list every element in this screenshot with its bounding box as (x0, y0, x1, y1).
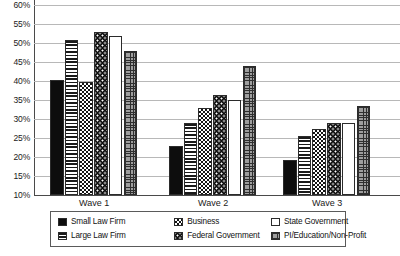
bar (342, 123, 356, 195)
x-axis-tick-label: Wave 3 (312, 198, 342, 208)
legend-item[interactable]: Federal Government (174, 229, 271, 243)
x-axis-tick-label: Wave 2 (198, 198, 228, 208)
legend-item[interactable]: Business (174, 215, 271, 229)
y-axis-tick-label: 45% (14, 58, 30, 67)
bar (65, 40, 79, 195)
y-axis-tick-label: 20% (14, 153, 30, 162)
bar (228, 100, 242, 195)
bar (198, 108, 212, 195)
bar (169, 146, 183, 195)
bars-layer (34, 0, 400, 196)
bar (124, 51, 138, 195)
legend-item-label: Business (187, 218, 219, 226)
bar (184, 123, 198, 195)
bar (357, 106, 371, 195)
legend-swatch (271, 232, 280, 240)
legend-item-label: Large Law Firm (71, 232, 126, 240)
bar (50, 80, 64, 195)
y-axis-tick-label: 35% (14, 96, 30, 105)
bar-group (50, 0, 158, 196)
bar (213, 95, 227, 195)
bar (79, 82, 93, 195)
legend-swatch (174, 218, 183, 226)
legend-swatch (58, 232, 67, 240)
legend-item[interactable]: Small Law Firm (58, 215, 174, 229)
legend-item-label: State Government (284, 218, 348, 226)
x-axis: Wave 1Wave 2Wave 3 (34, 196, 400, 212)
bar (243, 66, 257, 195)
y-axis-tick-label: 40% (14, 77, 30, 86)
legend-item[interactable]: PI/Education/Non-Profit (271, 229, 341, 243)
bar (327, 123, 341, 195)
y-axis: 60%55%50%45%40%35%30%25%20%15%10% (0, 0, 32, 196)
y-axis-tick-label: 10% (14, 191, 30, 200)
x-axis-tick-label: Wave 1 (79, 198, 109, 208)
legend-item-label: Small Law Firm (71, 218, 125, 226)
legend-swatch (174, 232, 183, 240)
legend-item[interactable]: Large Law Firm (58, 229, 174, 243)
y-axis-tick-label: 25% (14, 134, 30, 143)
bar (109, 36, 123, 195)
legend-row: Small Law FirmBusinessState Government (58, 215, 341, 229)
bar (94, 32, 108, 195)
legend-row: Large Law FirmFederal GovernmentPI/Educa… (58, 229, 341, 243)
plot-area: 60%55%50%45%40%35%30%25%20%15%10% Wave 1… (0, 0, 400, 196)
legend-item-label: Federal Government (187, 232, 259, 240)
bar-chart: 60%55%50%45%40%35%30%25%20%15%10% Wave 1… (0, 0, 400, 256)
chart-legend: Small Law FirmBusinessState Government L… (50, 211, 346, 247)
bar (312, 129, 326, 196)
legend-item-label: PI/Education/Non-Profit (284, 232, 366, 240)
bar-group (169, 0, 277, 196)
y-axis-tick-label: 55% (14, 20, 30, 29)
bar (283, 160, 297, 195)
y-axis-tick-label: 15% (14, 172, 30, 181)
legend-swatch (271, 218, 280, 226)
bar (298, 136, 312, 195)
y-axis-tick-label: 60% (14, 1, 30, 10)
bar-group (283, 0, 391, 196)
y-axis-tick-label: 30% (14, 115, 30, 124)
y-axis-tick-label: 50% (14, 39, 30, 48)
legend-item[interactable]: State Government (271, 215, 341, 229)
legend-swatch (58, 218, 67, 226)
